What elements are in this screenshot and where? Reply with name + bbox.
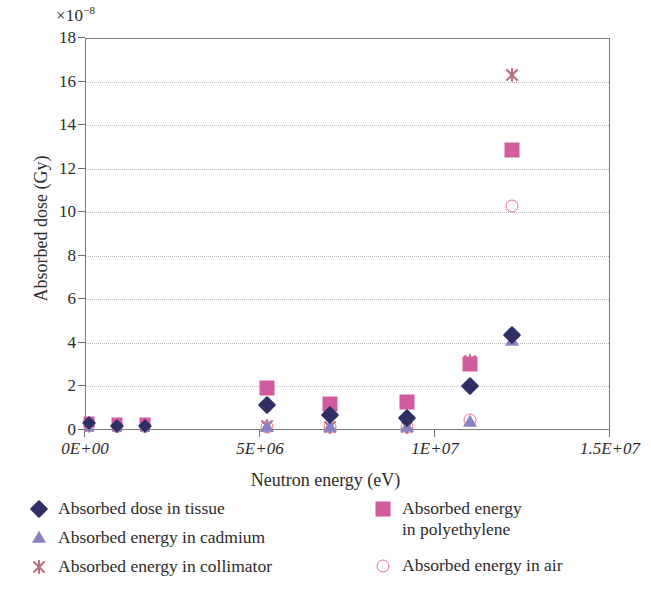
legend-item-label: Absorbed energy in collimator <box>58 556 272 577</box>
x-axis-tick <box>434 430 435 437</box>
legend-column-right: Absorbed energy in polyethyleneAbsorbed … <box>372 498 647 584</box>
legend-item[interactable]: Absorbed energy in polyethylene <box>372 498 647 539</box>
legend-item[interactable]: Absorbed energy in air <box>372 555 647 577</box>
gridline <box>86 256 609 257</box>
y-axis-tick <box>78 342 85 343</box>
plot-area <box>85 38 610 430</box>
legend-item-label: Absorbed energy in polyethylene <box>402 498 522 539</box>
legend-item[interactable]: Absorbed energy in cadmium <box>28 527 368 549</box>
gridline <box>86 125 609 126</box>
y-axis-tick-label: 0 <box>34 421 76 438</box>
gridline <box>86 343 609 344</box>
gridline <box>86 169 609 170</box>
x-axis-tick-label: 0E+00 <box>30 440 140 457</box>
x-axis-tick-label: 1.5E+07 <box>555 440 651 457</box>
y-axis-tick <box>78 298 85 299</box>
legend-diamond-icon <box>28 498 54 520</box>
chart-legend: Absorbed dose in tissueAbsorbed energy i… <box>0 498 651 591</box>
gridline <box>86 82 609 83</box>
gridline <box>86 386 609 387</box>
y-axis-tick <box>78 255 85 256</box>
y-axis-tick <box>78 124 85 125</box>
gridline <box>86 212 609 213</box>
legend-item[interactable]: Absorbed energy in collimator <box>28 556 368 578</box>
y-axis-multiplier-exponent: −8 <box>83 4 95 16</box>
chart-figure: ×10−8 0246810121416180E+005E+061E+071.5E… <box>0 0 651 591</box>
legend-square-icon <box>372 498 398 520</box>
legend-circle-icon <box>372 555 398 577</box>
y-axis-tick-label: 16 <box>34 73 76 90</box>
y-axis-tick <box>78 385 85 386</box>
x-axis-tick <box>259 430 260 437</box>
y-axis-tick <box>78 168 85 169</box>
gridline <box>86 299 609 300</box>
x-axis-tick <box>84 430 85 437</box>
x-axis-tick <box>609 430 610 437</box>
x-axis-tick-label: 1E+07 <box>380 440 490 457</box>
y-axis-tick-label: 2 <box>34 377 76 394</box>
y-axis-tick <box>78 211 85 212</box>
y-axis-tick-label: 18 <box>34 29 76 46</box>
legend-item-label: Absorbed energy in cadmium <box>58 527 265 548</box>
y-axis-multiplier: ×10−8 <box>56 4 95 26</box>
legend-item-label: Absorbed dose in tissue <box>58 498 225 519</box>
legend-triangle-icon <box>28 527 54 549</box>
legend-item[interactable]: Absorbed dose in tissue <box>28 498 368 520</box>
legend-column-left: Absorbed dose in tissueAbsorbed energy i… <box>28 498 368 585</box>
y-axis-tick <box>78 81 85 82</box>
y-axis-tick <box>78 37 85 38</box>
x-axis-tick-label: 5E+06 <box>205 440 315 457</box>
legend-star-icon <box>28 556 54 578</box>
x-axis-title: Neutron energy (eV) <box>0 470 651 491</box>
y-axis-multiplier-base: ×10 <box>56 6 83 25</box>
legend-item-label: Absorbed energy in air <box>402 555 563 576</box>
y-axis-title: Absorbed dose (Gy) <box>31 99 52 359</box>
